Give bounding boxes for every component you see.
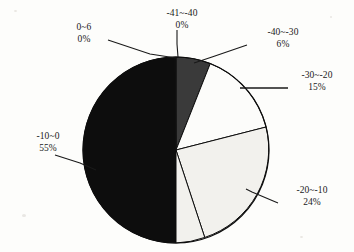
pie-slice--10-0 [83,57,176,243]
pie-label--30--20: -30~-20 15% [280,70,354,93]
pie-label--40--30: -40~-30 6% [241,27,325,50]
pie-label--41--40-percent: 0% [140,20,224,32]
pie-chart-figure: -41~-40 0% -40~-30 6% -30~-20 15% -20~-1… [0,0,354,252]
scan-speck [300,236,303,238]
leader-line--41--40 [177,30,178,57]
pie-label--41--40-range: -41~-40 [140,8,224,20]
pie-label--20--10-percent: 24% [272,197,352,209]
pie-label--40--30-range: -40~-30 [241,27,325,39]
pie-label--30--20-range: -30~-20 [280,70,354,82]
pie-label--41--40: -41~-40 0% [140,8,224,31]
scan-speck [330,16,332,18]
pie-label--20--10-range: -20~-10 [272,185,352,197]
pie-label-0-6-percent: 0% [48,34,120,46]
pie-label--20--10: -20~-10 24% [272,185,352,208]
pie-label-0-6: 0~6 0% [48,22,120,45]
pie-label--10-0: -10~0 55% [12,131,84,154]
pie-label--10-0-range: -10~0 [12,131,84,143]
pie-label--40--30-percent: 6% [241,39,325,51]
pie-label-0-6-range: 0~6 [48,22,120,34]
pie-label--10-0-percent: 55% [12,143,84,155]
scan-speck [22,214,26,217]
scan-speck [14,10,17,12]
pie-label--30--20-percent: 15% [280,82,354,94]
leader-line--40--30 [194,45,247,63]
